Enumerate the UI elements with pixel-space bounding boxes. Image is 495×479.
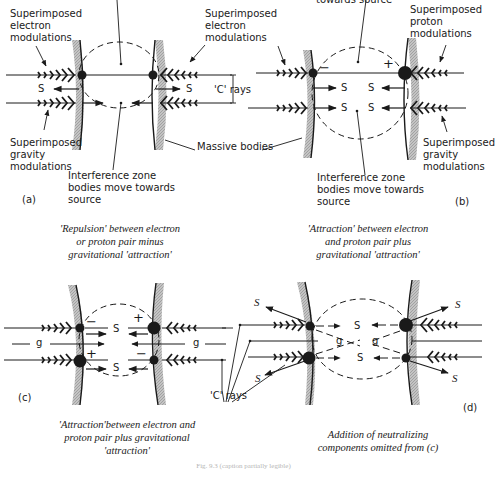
- label-superimposed-electron-modulations-left: Superimposed electron modulations: [10, 8, 82, 44]
- label-interference-zone-a: Interference zone bodies move towards so…: [68, 170, 175, 206]
- symbol-s: S: [113, 362, 119, 373]
- symbol-g: g: [36, 337, 42, 348]
- symbol-s: S: [341, 102, 347, 113]
- label-superimposed-proton-modulations: Superimposed proton modulations: [410, 4, 482, 40]
- symbol-s-italic: S: [452, 372, 458, 384]
- label-superimposed-gravity-modulations-b: Superimposed gravity modulations: [423, 137, 495, 173]
- caption-c: 'Attraction'between electron and proton …: [42, 418, 212, 457]
- panel-label-a: (a): [22, 194, 36, 205]
- caption-d: Addition of neutralizing components omit…: [298, 428, 458, 454]
- symbol-g: g: [336, 335, 342, 346]
- symbol-s: S: [186, 83, 192, 94]
- symbol-plus: +: [86, 346, 97, 361]
- symbol-s-italic: S: [455, 298, 461, 310]
- caption-b: 'Attraction' between electron and proton…: [288, 222, 448, 261]
- panel-label-b: (b): [455, 196, 469, 207]
- symbol-minus: −: [86, 314, 97, 329]
- figure-caption-faint: Fig. 9.3 (caption partially legible): [0, 462, 487, 470]
- label-towards-source-cut: towards source: [316, 0, 392, 6]
- symbol-s: S: [357, 352, 363, 363]
- symbol-g: g: [193, 337, 199, 348]
- symbol-s: S: [341, 82, 347, 93]
- label-superimposed-electron-modulations-right: Superimposed electron modulations: [205, 8, 277, 44]
- symbol-s: S: [354, 320, 360, 331]
- panel-label-d: (d): [463, 402, 477, 413]
- symbol-s: S: [113, 323, 119, 334]
- label-superimposed-gravity-modulations-a: Superimposed gravity modulations: [10, 137, 82, 173]
- symbol-minus: −: [319, 60, 330, 75]
- symbol-plus: +: [133, 310, 144, 325]
- caption-a: 'Repulsion' between electron or proton p…: [40, 222, 200, 261]
- symbol-s: S: [38, 83, 44, 94]
- label-c-rays-c: 'C' rays: [210, 390, 247, 402]
- label-massive-bodies: Massive bodies: [197, 141, 273, 153]
- symbol-s: S: [368, 82, 374, 93]
- symbol-s-italic: S: [255, 372, 261, 384]
- symbol-g: g: [372, 335, 378, 346]
- symbol-s: S: [368, 102, 374, 113]
- symbol-s-italic: S: [254, 296, 260, 308]
- panel-label-c: (c): [18, 392, 31, 403]
- label-c-rays-a: 'C' rays: [214, 84, 251, 96]
- label-interference-zone-b: Interference zone bodies move towards so…: [317, 172, 424, 208]
- panel-d-drawing: [222, 280, 482, 405]
- symbol-minus: −: [136, 346, 147, 361]
- symbol-plus: +: [383, 56, 394, 71]
